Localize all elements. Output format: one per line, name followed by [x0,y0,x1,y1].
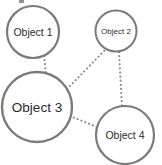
node-circle-object-4[interactable] [96,106,154,164]
graph-edge [44,56,46,73]
graph-edge [67,49,106,89]
graph-svg [0,0,162,165]
node-circle-object-3[interactable] [2,72,72,142]
graph-edge [70,116,97,127]
graph-edge [119,52,122,106]
node-circle-object-2[interactable] [96,11,137,52]
node-circle-object-1[interactable] [7,6,59,58]
diagram-canvas: Object 1Object 2Object 3Object 4 [0,0,162,165]
node-layer [2,6,154,164]
